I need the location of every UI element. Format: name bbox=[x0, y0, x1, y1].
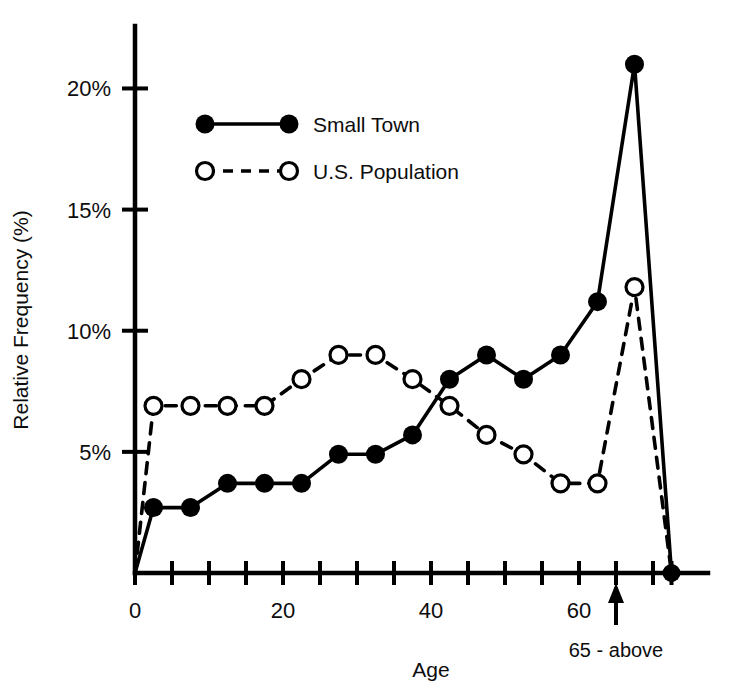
series-line-0 bbox=[135, 64, 672, 573]
data-point-0-11 bbox=[514, 370, 533, 389]
data-point-1-8 bbox=[404, 371, 421, 388]
legend-marker-0-1 bbox=[280, 115, 299, 134]
data-point-0-2 bbox=[181, 498, 200, 517]
data-point-0-12 bbox=[551, 345, 570, 364]
data-point-0-9 bbox=[440, 370, 459, 389]
legend-marker-1-0 bbox=[197, 163, 214, 180]
x-tick-label-20: 20 bbox=[271, 598, 295, 623]
data-point-0-5 bbox=[292, 474, 311, 493]
line-chart-plot: 5%10%15%20%020406065 - aboveAgeRelative … bbox=[0, 0, 731, 694]
data-point-1-6 bbox=[330, 346, 347, 363]
data-point-0-13 bbox=[588, 292, 607, 311]
data-point-0-4 bbox=[255, 474, 274, 493]
data-point-1-12 bbox=[552, 475, 569, 492]
data-point-1-1 bbox=[145, 397, 162, 414]
annotation-label-0: 65 - above bbox=[569, 639, 664, 661]
data-point-1-5 bbox=[293, 371, 310, 388]
data-point-1-13 bbox=[589, 475, 606, 492]
data-point-1-2 bbox=[182, 397, 199, 414]
series-line-1 bbox=[135, 287, 672, 573]
x-tick-label-40: 40 bbox=[419, 598, 443, 623]
data-point-1-4 bbox=[256, 397, 273, 414]
data-point-1-3 bbox=[219, 397, 236, 414]
data-point-0-8 bbox=[403, 425, 422, 444]
data-point-0-6 bbox=[329, 445, 348, 464]
y-tick-label-20: 20% bbox=[67, 76, 111, 101]
y-tick-label-5: 5% bbox=[79, 440, 111, 465]
annotation-arrow-head bbox=[608, 583, 624, 603]
y-axis-title: Relative Frequency (%) bbox=[9, 210, 32, 429]
data-point-1-14 bbox=[626, 279, 643, 296]
y-tick-label-15: 15% bbox=[67, 198, 111, 223]
legend-marker-0-0 bbox=[196, 115, 215, 134]
data-point-1-11 bbox=[515, 446, 532, 463]
data-point-1-7 bbox=[367, 346, 384, 363]
data-point-1-10 bbox=[478, 426, 495, 443]
data-point-0-1 bbox=[144, 498, 163, 517]
x-axis-title: Age bbox=[412, 658, 449, 681]
x-tick-label-0: 0 bbox=[129, 598, 141, 623]
x-tick-label-60: 60 bbox=[567, 598, 591, 623]
data-point-0-10 bbox=[477, 345, 496, 364]
chart-container: 5%10%15%20%020406065 - aboveAgeRelative … bbox=[0, 0, 731, 694]
legend-marker-1-1 bbox=[281, 163, 298, 180]
data-point-0-14 bbox=[625, 55, 644, 74]
y-tick-label-10: 10% bbox=[67, 319, 111, 344]
legend-label-0: Small Town bbox=[313, 113, 420, 136]
legend-label-1: U.S. Population bbox=[313, 160, 459, 183]
data-point-1-9 bbox=[441, 397, 458, 414]
data-point-0-3 bbox=[218, 474, 237, 493]
data-point-0-7 bbox=[366, 445, 385, 464]
